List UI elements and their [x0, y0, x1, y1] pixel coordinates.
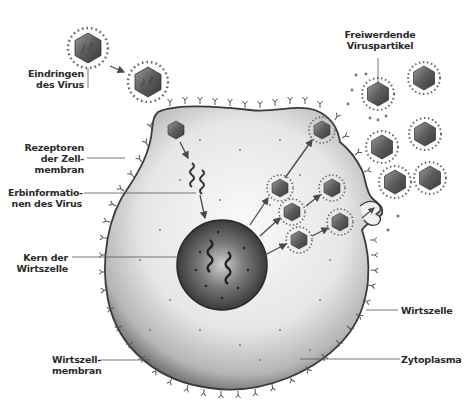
- label-line: Rezeptoren: [20, 142, 84, 153]
- label-host-nucleus: Kern der Wirtszelle: [10, 252, 68, 274]
- label-line: des Virus: [18, 79, 84, 90]
- label-line: membran: [52, 365, 102, 376]
- label-line: Viruspartikel: [330, 40, 430, 51]
- label-line: Erbinformatio-: [8, 187, 82, 198]
- label-line: Wirtszell-: [52, 354, 102, 365]
- label-virus-entry: Eindringen des Virus: [18, 68, 84, 90]
- label-line: Wirtszelle: [401, 305, 453, 316]
- label-line: nen des Virus: [8, 198, 82, 209]
- label-host-membrane: Wirtszell- membran: [52, 354, 102, 376]
- label-host-cell: Wirtszelle: [401, 305, 453, 316]
- virus-entering-2: [128, 62, 168, 102]
- virus-entering-1: [68, 28, 108, 68]
- entry-arrow: [110, 66, 124, 72]
- label-line: Eindringen: [18, 68, 84, 79]
- label-released-particles: Freiwerdende Viruspartikel: [330, 29, 430, 51]
- label-line: Kern der: [10, 252, 68, 263]
- label-line: der Zell-: [20, 153, 84, 164]
- label-membrane-receptors: Rezeptoren der Zell- membran: [20, 142, 84, 175]
- label-line: membran: [20, 164, 84, 175]
- label-cytoplasm: Zytoplasma: [401, 354, 462, 365]
- label-line: Zytoplasma: [401, 354, 462, 365]
- host-nucleus: [177, 220, 267, 310]
- label-line: Freiwerdende: [330, 29, 430, 40]
- label-viral-genetic-info: Erbinformatio- nen des Virus: [8, 187, 82, 209]
- label-line: Wirtszelle: [10, 263, 68, 274]
